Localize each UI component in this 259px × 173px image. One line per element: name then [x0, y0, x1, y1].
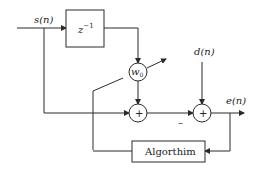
output-label: e(n) — [226, 95, 246, 106]
minus-sign: – — [178, 117, 183, 128]
adaptive-filter-diagram: s(n) z−1 w0 + – d(n) + e(n) Algorthim — [0, 0, 259, 173]
input-label: s(n) — [34, 14, 53, 25]
adder-1-symbol: + — [135, 108, 143, 119]
algorithm-label: Algorthim — [144, 146, 196, 157]
delay-to-weight-line — [104, 28, 138, 63]
adder-2-symbol: + — [199, 108, 207, 119]
desired-label: d(n) — [194, 46, 215, 57]
adaptation-arrow — [147, 59, 166, 68]
algorithm-to-weight-line — [93, 78, 123, 150]
